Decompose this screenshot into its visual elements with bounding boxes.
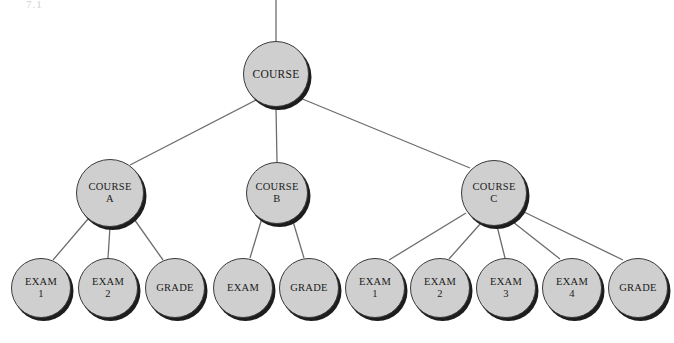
tree-edge [134, 219, 163, 260]
tree-node-leaf[interactable]: EXAM [213, 258, 273, 318]
node-label-line1: EXAM [556, 276, 588, 288]
tree-node-leaf[interactable]: GRADE [279, 258, 339, 318]
tree-edge [250, 218, 262, 258]
node-label-line2: 2 [437, 288, 443, 300]
node-label-line2: C [490, 193, 497, 205]
node-label-line1: COURSE [252, 68, 299, 81]
tree-node-leaf[interactable]: EXAM2 [78, 258, 138, 318]
node-label-line2: B [273, 193, 280, 205]
tree-edge [300, 98, 470, 168]
tree-edge [292, 218, 304, 258]
node-label-line2: 1 [372, 288, 378, 300]
node-label-line1: EXAM [424, 276, 456, 288]
tree-node-course[interactable]: COURSEC [461, 160, 527, 226]
tree-node-leaf[interactable]: EXAM1 [345, 258, 405, 318]
node-label-line2: 2 [105, 288, 111, 300]
tree-diagram-canvas: 7.1 COURSECOURSEACOURSEBCOURSECEXAM1EXAM… [0, 0, 674, 343]
node-label-line1: EXAM [359, 276, 391, 288]
tree-edge [524, 212, 623, 260]
node-label-line1: GRADE [290, 282, 328, 294]
tree-edge [130, 100, 256, 165]
node-label-line2: A [106, 193, 114, 205]
tree-node-leaf[interactable]: EXAM4 [542, 258, 602, 318]
node-label-line2: 3 [503, 288, 509, 300]
node-label-line1: COURSE [472, 181, 515, 193]
tree-node-course[interactable]: COURSEB [246, 162, 308, 224]
node-label-line2: 1 [38, 288, 44, 300]
tree-edge [276, 107, 277, 162]
node-label-line1: EXAM [227, 282, 259, 294]
tree-node-leaf[interactable]: GRADE [145, 258, 205, 318]
node-label-line1: GRADE [156, 282, 194, 294]
tree-edge [449, 223, 481, 259]
node-label-line1: GRADE [619, 282, 657, 294]
tree-edge [53, 219, 88, 260]
node-label-line1: EXAM [490, 276, 522, 288]
node-label-line1: EXAM [92, 276, 124, 288]
tree-edge [513, 222, 560, 259]
node-label-line1: COURSE [88, 181, 131, 193]
tree-edge [497, 226, 505, 258]
tree-node-root[interactable]: COURSE [243, 41, 309, 107]
tree-node-leaf[interactable]: GRADE [608, 258, 668, 318]
tree-edge [108, 227, 110, 258]
tree-node-course[interactable]: COURSEA [76, 159, 144, 227]
node-label-line1: EXAM [25, 276, 57, 288]
node-label-line2: 4 [569, 288, 575, 300]
tree-node-leaf[interactable]: EXAM1 [11, 258, 71, 318]
tree-node-leaf[interactable]: EXAM3 [476, 258, 536, 318]
node-label-line1: COURSE [255, 181, 298, 193]
tree-node-leaf[interactable]: EXAM2 [410, 258, 470, 318]
